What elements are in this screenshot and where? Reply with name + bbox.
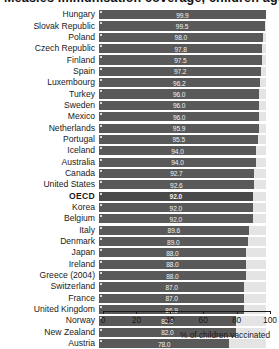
bar-category-label: United Kingdom [0, 305, 99, 314]
bar-row: France87.0 [0, 293, 279, 304]
bar-value-label: 89.6 [168, 227, 180, 234]
bar-value-label: 92.6 [170, 181, 182, 188]
bar-category-label: Korea [0, 203, 99, 212]
bar-track: 94.0 [99, 158, 266, 167]
bar-start-cap [100, 181, 102, 183]
bar-start-cap [100, 125, 102, 127]
x-tick-label: 60 [199, 315, 208, 325]
bar-row: Korea92.0 [0, 202, 279, 213]
bar-category-label: Portugal [0, 135, 99, 144]
x-tick-mark [203, 311, 204, 314]
bar-start-cap [100, 272, 102, 274]
bar-track: 92.7 [99, 169, 266, 178]
bar-category-label: Belgium [0, 214, 99, 223]
bar-start-cap [100, 34, 102, 36]
bar-row: Japan88.0 [0, 247, 279, 258]
bar-row: United States92.6 [0, 179, 279, 190]
bar-start-cap [100, 45, 102, 47]
bar-category-label: Iceland [0, 146, 99, 155]
bar-start-cap [100, 22, 102, 24]
bar-category-label: Spain [0, 67, 99, 76]
bar-track: 96.0 [99, 101, 266, 110]
bar-start-cap [100, 79, 102, 81]
bar-category-label: Denmark [0, 237, 99, 246]
bar-start-cap [100, 227, 102, 229]
bar-category-label: New Zealand [0, 328, 99, 337]
bar-track: 94.0 [99, 146, 266, 155]
bar-track: 92.0 [99, 203, 266, 212]
bar-category-label: Canada [0, 169, 99, 178]
bar-row: Mexico96.0 [0, 111, 279, 122]
bar-value-label: 92.0 [170, 193, 182, 200]
bar-category-label: Sweden [0, 101, 99, 110]
bar-start-cap [100, 147, 102, 149]
bar-row: Poland98.0 [0, 32, 279, 43]
bar-value-label: 97.8 [174, 45, 186, 52]
bar-value-label: 94.0 [171, 159, 183, 166]
bar-value-label: 97.5 [174, 57, 186, 64]
bar-row: Portugal95.5 [0, 134, 279, 145]
bar-track: 87.0 [99, 282, 266, 291]
bar-category-label: Ireland [0, 260, 99, 269]
x-tick-label: 80 [232, 315, 241, 325]
bar-category-label: Turkey [0, 90, 99, 99]
bar-track: 99.9 [99, 10, 266, 19]
bar-category-label: France [0, 294, 99, 303]
x-tick-mark [270, 311, 271, 314]
bar-start-cap [100, 261, 102, 263]
bar-value-label: 92.0 [170, 204, 182, 211]
bar-start-cap [100, 204, 102, 206]
bar-category-label: Finland [0, 56, 99, 65]
bar-track: 96.0 [99, 89, 266, 98]
bar-value-label: 99.5 [176, 23, 188, 30]
bar-track: 96.0 [99, 112, 266, 121]
bar-start-cap [100, 68, 102, 70]
bar-start-cap [100, 295, 102, 297]
bar-row: Turkey96.0 [0, 88, 279, 99]
bar-track: 95.5 [99, 135, 266, 144]
x-tick-mark [136, 311, 137, 314]
bar-row: Finland97.5 [0, 54, 279, 65]
bar-start-cap [100, 170, 102, 172]
bar-value-label: 88.0 [166, 249, 178, 256]
bar-value-label: 96.0 [173, 113, 185, 120]
x-tick-mark [237, 311, 238, 314]
bar-start-cap [100, 193, 102, 195]
bar-value-label: 88.0 [166, 261, 178, 268]
bar-row: Canada92.7 [0, 168, 279, 179]
bar-row: OECD92.0 [0, 191, 279, 202]
bar-value-label: 92.0 [170, 215, 182, 222]
bar-track: 92.6 [99, 180, 266, 189]
bar-row: Denmark89.0 [0, 236, 279, 247]
x-tick-mark [170, 311, 171, 314]
bar-row: Spain97.2 [0, 66, 279, 77]
bar-row: Ireland88.0 [0, 259, 279, 270]
bar-track: 88.0 [99, 248, 266, 257]
bar-start-cap [100, 56, 102, 58]
bar-track: 99.5 [99, 21, 266, 30]
bar-value-label: 96.0 [173, 91, 185, 98]
bar-start-cap [100, 90, 102, 92]
bar-row: Australia94.0 [0, 156, 279, 167]
x-tick-mark [103, 311, 104, 314]
chart-title: Measles immunisation coverage, children … [4, 0, 279, 5]
bar-row: Hungary99.9 [0, 9, 279, 20]
chart-title-clipped: Measles immunisation coverage, children … [0, 0, 279, 7]
bar-category-label: Japan [0, 248, 99, 257]
bar-value-label: 94.0 [171, 147, 183, 154]
x-tick-label: 20 [132, 315, 141, 325]
bar-row: Slovak Republic99.5 [0, 20, 279, 31]
bar-row: Greece (2004)88.0 [0, 270, 279, 281]
bar-track: 95.9 [99, 124, 266, 133]
bar-category-label: Mexico [0, 112, 99, 121]
bar-start-cap [100, 329, 102, 331]
bar-category-label: Italy [0, 226, 99, 235]
bar-start-cap [100, 215, 102, 217]
bar-category-label: Norway [0, 316, 99, 325]
bar-track: 88.0 [99, 260, 266, 269]
bar-start-cap [100, 136, 102, 138]
bar-row: Netherlands95.9 [0, 122, 279, 133]
x-tick-label: 100 [263, 315, 277, 325]
bar-track: 89.0 [99, 237, 266, 246]
bar-category-label: OECD [0, 192, 99, 201]
